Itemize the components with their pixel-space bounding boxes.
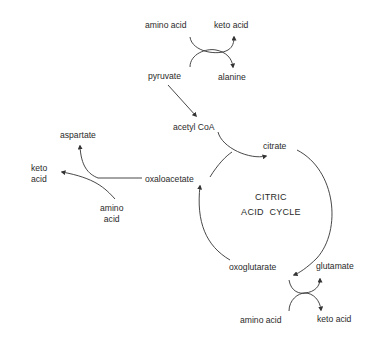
label-citrate: citrate	[263, 141, 286, 151]
label-alanine: alanine	[218, 72, 246, 82]
cycle-title-line1: CITRIC	[231, 190, 311, 205]
arrow-oxaloacetate-join	[210, 152, 232, 177]
arrow-layer	[0, 0, 384, 341]
label-acetyl-coa: acetyl CoA	[173, 122, 215, 132]
label-amino-acid-left-line2: acid	[100, 214, 123, 225]
label-amino-acid-left-line1: amino	[100, 203, 123, 214]
arrow-oxoglutarate-to-glutamate	[289, 279, 320, 293]
label-amino-acid-left: amino acid	[100, 203, 123, 225]
label-glutamate: glutamate	[316, 261, 354, 271]
cycle-title-line2: ACID CYCLE	[231, 205, 311, 220]
label-amino-acid-bottom: amino acid	[240, 315, 282, 325]
arrow-amino-to-keto-left	[62, 172, 115, 199]
label-aspartate: aspartate	[60, 130, 96, 140]
label-oxaloacetate: oxaloacetate	[145, 174, 194, 184]
label-keto-acid-left-line2: acid	[31, 174, 47, 185]
arrow-amino-to-keto-bottom	[289, 293, 321, 311]
label-keto-acid-top: keto acid	[214, 20, 248, 30]
arrow-oxoglutarate-to-oxaloacetate	[199, 186, 230, 260]
label-keto-acid-left: keto acid	[31, 163, 47, 185]
arrow-to-aspartate	[80, 146, 98, 178]
label-amino-acid-top: amino acid	[145, 20, 187, 30]
arrow-top-amino-to-keto	[190, 37, 234, 53]
arrow-pyruvate-to-acetylcoa	[168, 85, 196, 116]
label-keto-acid-bottom: keto acid	[317, 314, 351, 324]
arrow-acetylcoa-to-citrate	[218, 132, 266, 157]
label-pyruvate: pyruvate	[148, 71, 181, 81]
label-keto-acid-left-line1: keto	[31, 163, 47, 174]
cycle-title: CITRIC ACID CYCLE	[231, 190, 311, 220]
diagram-canvas: amino acid keto acid pyruvate alanine ac…	[0, 0, 384, 341]
label-oxoglutarate: oxoglutarate	[229, 262, 276, 272]
